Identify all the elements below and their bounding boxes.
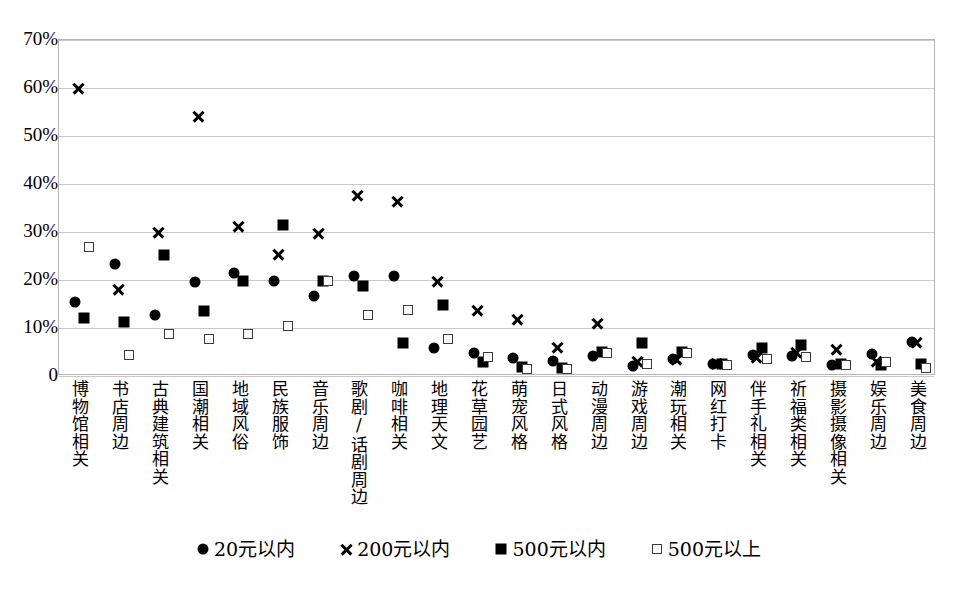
y-axis: 010%20%30%40%50%60%70% [0, 0, 58, 420]
data-point-circle [588, 350, 599, 361]
data-point-circle [229, 268, 240, 279]
y-axis-tick-label: 30% [2, 221, 58, 240]
x-axis-tick-label: 祈福类相关 [784, 380, 806, 468]
data-point-circle [468, 347, 479, 358]
x-axis-tick-label: 地域风俗 [226, 380, 248, 450]
data-point-circle [628, 361, 639, 372]
legend-item[interactable]: 500元以内 [494, 538, 605, 560]
data-point-square [796, 340, 807, 351]
data-point-square [118, 317, 129, 328]
x-axis-tick-label: 地理天文 [426, 380, 448, 450]
gridline [59, 136, 934, 137]
data-point-open-square [483, 352, 493, 362]
x-axis-tick-label: 民族服饰 [266, 380, 288, 450]
y-axis-tick-label: 20% [2, 269, 58, 288]
legend-item[interactable]: 20元以内 [196, 538, 295, 560]
y-axis-tick-label: 10% [2, 317, 58, 336]
data-point-square [437, 299, 448, 310]
data-point-circle [667, 354, 678, 365]
data-point-open-square [921, 363, 931, 373]
data-point-circle [508, 353, 519, 364]
x-axis-tick-label: 咖啡相关 [386, 380, 408, 450]
data-point-circle [149, 309, 160, 320]
data-point-circle [309, 290, 320, 301]
y-axis-tick-label: 40% [2, 173, 58, 192]
data-point-cross [391, 195, 404, 208]
y-axis-tick-label: 70% [2, 29, 58, 48]
y-axis-tick-label: 60% [2, 77, 58, 96]
data-point-cross [750, 351, 763, 364]
data-point-cross [511, 313, 524, 326]
data-point-cross [351, 189, 364, 202]
data-point-square [637, 338, 648, 349]
data-point-open-square [602, 348, 612, 358]
legend-item-label: 500元以上 [668, 538, 761, 560]
data-point-square [278, 219, 289, 230]
data-point-open-square [522, 364, 532, 374]
data-point-open-square [642, 359, 652, 369]
data-point-circle [109, 259, 120, 270]
x-axis-tick-label: 日式风格 [545, 380, 567, 450]
data-point-square [318, 276, 329, 287]
data-point-open-square [762, 354, 772, 364]
x-axis-tick-label: 花草园艺 [466, 380, 488, 450]
data-point-circle [548, 356, 559, 367]
x-axis-tick-label: 潮玩相关 [665, 380, 687, 450]
data-point-open-square [164, 329, 174, 339]
data-point-circle [428, 343, 439, 354]
data-point-circle [787, 350, 798, 361]
data-point-cross [870, 355, 883, 368]
data-point-open-square [243, 329, 253, 339]
data-point-open-square [204, 334, 214, 344]
x-axis-tick-label: 萌宠风格 [505, 380, 527, 450]
legend-item[interactable]: 500元以上 [650, 538, 761, 560]
legend-item-label: 500元以内 [512, 538, 605, 560]
x-axis-tick-label: 歌剧/话剧周边 [346, 380, 368, 506]
data-point-open-square [841, 360, 851, 370]
data-point-square [357, 280, 368, 291]
gridline [59, 88, 934, 89]
data-point-square [238, 276, 249, 287]
data-point-cross [910, 336, 923, 349]
square-icon [496, 544, 507, 555]
data-point-cross [551, 341, 564, 354]
data-point-circle [867, 349, 878, 360]
data-point-square [198, 305, 209, 316]
data-point-square [876, 360, 887, 371]
data-point-open-square [323, 276, 333, 286]
gridline [59, 280, 934, 281]
data-point-open-square [801, 352, 811, 362]
y-axis-tick-label: 0 [2, 365, 58, 384]
data-point-square [397, 338, 408, 349]
gridline [59, 232, 934, 233]
data-point-open-square [283, 321, 293, 331]
data-point-circle [189, 277, 200, 288]
legend-marker-square-icon [494, 542, 508, 556]
x-axis-tick-label: 音乐周边 [306, 380, 328, 450]
legend-item[interactable]: 200元以内 [339, 538, 450, 560]
data-point-open-square [124, 350, 134, 360]
data-point-circle [907, 336, 918, 347]
data-point-square [716, 358, 727, 369]
gridline [59, 328, 934, 329]
x-axis-tick-label: 游戏周边 [625, 380, 647, 450]
chart-legend: 20元以内200元以内500元以内500元以上 [0, 538, 957, 560]
data-point-square [676, 346, 687, 357]
data-point-open-square [443, 334, 453, 344]
data-point-cross [830, 343, 843, 356]
x-axis-tick-label: 伴手礼相关 [745, 380, 767, 468]
data-point-square [557, 363, 568, 374]
cross-icon [340, 543, 353, 556]
data-point-circle [827, 360, 838, 371]
x-axis-tick-label: 网红打卡 [705, 380, 727, 450]
open-square-icon [652, 544, 662, 554]
x-axis-tick-label: 书店周边 [107, 380, 129, 450]
data-point-cross [272, 248, 285, 261]
figure-caption [0, 582, 957, 599]
scatter-chart: 010%20%30%40%50%60%70% 博物馆相关书店周边古典建筑相关国潮… [0, 0, 957, 599]
legend-item-label: 200元以内 [357, 538, 450, 560]
data-point-cross [431, 275, 444, 288]
data-point-square [78, 312, 89, 323]
legend-item-label: 20元以内 [214, 538, 295, 560]
x-axis-tick-label: 摄影摄像相关 [824, 380, 846, 485]
